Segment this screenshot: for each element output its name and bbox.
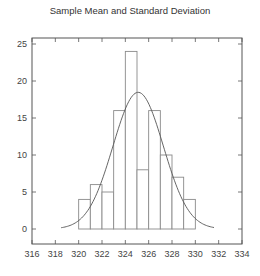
histogram-bars	[79, 51, 196, 229]
y-tick-label: 15	[17, 113, 27, 123]
histogram-bar	[160, 155, 172, 229]
chart: Sample Mean and Standard Deviation 31631…	[0, 0, 260, 276]
x-tick-label: 322	[94, 249, 109, 259]
x-tick-label: 332	[211, 249, 226, 259]
histogram-bar	[90, 185, 102, 229]
y-tick-label: 5	[22, 187, 27, 197]
x-tick-label: 328	[164, 249, 179, 259]
plot-area: 316318320322324326328330332334 051015202…	[0, 0, 260, 276]
histogram-bar	[149, 111, 161, 229]
histogram-bar	[137, 170, 149, 229]
histogram-bar	[172, 177, 184, 229]
x-tick-label: 324	[118, 249, 133, 259]
histogram-bar	[102, 192, 114, 229]
x-tick-label: 330	[188, 249, 203, 259]
x-tick-label: 320	[71, 249, 86, 259]
x-tick-label: 316	[24, 249, 39, 259]
y-tick-label: 20	[17, 76, 27, 86]
histogram-bar	[125, 51, 137, 229]
y-tick-label: 25	[17, 39, 27, 49]
x-tick-label: 334	[234, 249, 249, 259]
x-tick-label: 318	[48, 249, 63, 259]
y-tick-label: 0	[22, 224, 27, 234]
chart-title: Sample Mean and Standard Deviation	[0, 5, 260, 16]
histogram-bar	[114, 111, 126, 229]
x-tick-label: 326	[141, 249, 156, 259]
y-tick-label: 10	[17, 150, 27, 160]
histogram-bar	[184, 199, 196, 229]
